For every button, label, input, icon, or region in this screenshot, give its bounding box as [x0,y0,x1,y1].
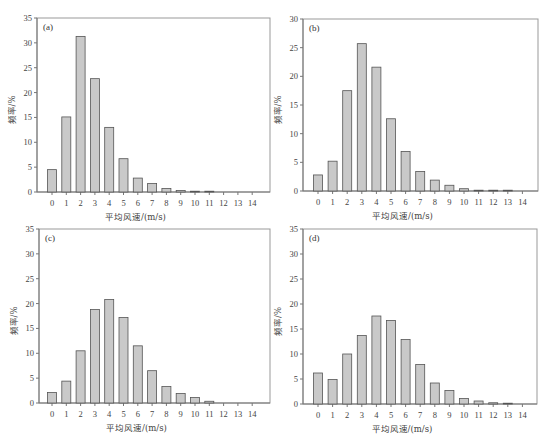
y-tick-label: 15 [24,112,33,122]
x-tick-label: 1 [330,410,334,420]
y-tick-label: 25 [290,274,299,284]
x-tick-label: 3 [360,197,364,207]
chart-panel-b: 05101520253001234567891011121314(b)平均风速/… [273,14,538,221]
y-tick-label: 10 [290,349,299,359]
bar [191,191,200,192]
x-tick-label: 5 [121,409,125,419]
bar [357,44,366,191]
x-tick-label: 2 [345,197,349,207]
x-tick-label: 13 [234,409,243,419]
x-tick-label: 9 [447,410,451,420]
x-tick-label: 11 [475,410,483,420]
x-tick-label: 1 [330,197,334,207]
y-tick-label: 0 [28,187,32,197]
bar [372,67,381,191]
bar [460,189,469,191]
bar [90,310,99,403]
bar [105,300,114,403]
bar [357,336,366,405]
y-tick-label: 20 [290,299,299,309]
y-tick-label: 5 [28,162,32,172]
x-tick-label: 1 [64,198,68,208]
bar [503,190,512,191]
bar [328,161,337,191]
y-tick-label: 20 [290,71,299,81]
bar [445,391,454,405]
x-tick-label: 9 [179,409,183,419]
x-tick-label: 12 [219,198,228,208]
x-tick-label: 14 [248,409,257,419]
y-tick-label: 10 [290,129,299,139]
bar [343,91,352,191]
y-tick-label: 5 [30,373,34,383]
bar [343,354,352,404]
chart-panel-c: 0510152025303501234567891011121314(c)平均风… [9,224,270,433]
panel-label: (d) [309,233,320,243]
bar [314,175,323,191]
y-tick-label: 35 [24,13,33,23]
x-tick-label: 7 [418,410,422,420]
x-tick-label: 14 [248,198,257,208]
y-axis-title: 频率/% [7,96,17,125]
bar [460,399,469,405]
bar [328,380,337,405]
x-tick-label: 7 [418,197,422,207]
bar [48,170,57,192]
x-tick-label: 6 [136,198,140,208]
y-tick-label: 30 [290,249,299,259]
x-tick-label: 13 [504,197,513,207]
y-tick-label: 25 [26,274,35,284]
y-axis-title: 频率/% [273,307,283,336]
y-tick-label: 5 [294,374,298,384]
x-tick-label: 8 [164,409,168,419]
x-tick-label: 5 [389,197,393,207]
bar [148,184,157,192]
y-tick-label: 30 [290,14,299,24]
bar [416,172,425,191]
y-tick-label: 15 [290,324,299,334]
y-tick-label: 25 [290,43,299,53]
y-tick-label: 30 [24,38,33,48]
x-tick-label: 11 [205,409,213,419]
y-tick-label: 0 [294,186,298,196]
bar [474,190,483,191]
plot-frame [303,19,538,191]
x-tick-label: 12 [489,197,498,207]
y-tick-label: 5 [294,157,298,167]
x-tick-label: 4 [374,410,379,420]
x-tick-label: 13 [504,410,513,420]
y-tick-label: 30 [26,249,35,259]
x-tick-label: 12 [219,409,228,419]
bar [76,351,85,403]
bar [62,381,71,403]
bar [474,401,483,404]
x-tick-label: 4 [374,197,379,207]
bar [90,79,99,192]
x-tick-label: 10 [191,198,200,208]
bar [416,365,425,405]
x-tick-label: 7 [150,409,154,419]
x-tick-label: 4 [107,198,112,208]
bar [387,119,396,191]
figure: 0510152025303501234567891011121314(a)平均风… [0,0,549,444]
x-tick-label: 7 [150,198,154,208]
y-tick-label: 35 [290,224,299,234]
x-tick-label: 8 [164,198,168,208]
x-axis-title: 平均风速/(m/s) [372,211,433,221]
bar [176,191,185,192]
y-tick-label: 15 [26,323,35,333]
x-axis-title: 平均风速/(m/s) [105,212,166,222]
x-tick-label: 11 [475,197,483,207]
y-tick-label: 10 [24,137,33,147]
x-tick-label: 9 [179,198,183,208]
bar [62,117,71,192]
x-axis-title: 平均风速/(m/s) [372,424,433,434]
x-tick-label: 5 [389,410,393,420]
x-tick-label: 11 [205,198,213,208]
x-tick-label: 12 [489,410,498,420]
x-tick-label: 0 [50,198,54,208]
y-tick-label: 25 [24,63,33,73]
x-tick-label: 14 [518,410,527,420]
x-tick-label: 10 [460,410,469,420]
bar [430,180,439,191]
